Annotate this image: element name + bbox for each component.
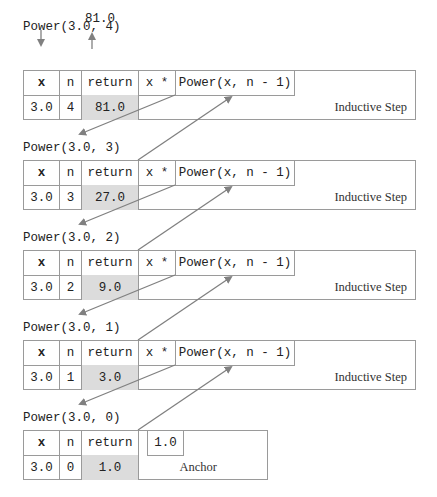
recursive-call-cell: Power(x, n - 1) <box>175 71 295 96</box>
value-x: 3.0 <box>24 455 60 480</box>
step-label: Inductive Step <box>334 275 407 300</box>
header-n: n <box>60 161 82 186</box>
frame-title: Power(3.0, 2) <box>23 230 121 246</box>
header-return: return <box>82 251 139 276</box>
frame-title: Power(3.0, 0) <box>23 410 121 426</box>
frame-title: Power(3.0, 1) <box>23 320 121 336</box>
stack-frame-2: x n return x * Power(x, n - 1) 3.0 3 27.… <box>23 160 416 210</box>
header-mult: x * <box>139 341 176 366</box>
value-x: 3.0 <box>24 95 60 120</box>
stack-frame-1: x n return x * Power(x, n - 1) 3.0 4 81.… <box>23 70 416 120</box>
header-return: return <box>82 431 139 456</box>
header-mult: x * <box>139 251 176 276</box>
step-label: Inductive Step <box>334 95 407 120</box>
stack-frame-3: x n return x * Power(x, n - 1) 3.0 2 9.0… <box>23 250 416 300</box>
recursive-call-cell: Power(x, n - 1) <box>175 251 295 276</box>
stack-frame-anchor: x n return 1.0 3.0 0 1.0 Anchor <box>23 430 268 480</box>
header-n: n <box>60 251 82 276</box>
header-x: x <box>24 431 60 456</box>
value-return: 3.0 <box>82 365 139 390</box>
header-x: x <box>24 71 60 96</box>
value-return: 1.0 <box>82 455 139 480</box>
frame-title: Power(3.0, 4) <box>23 19 121 35</box>
header-return: return <box>82 341 139 366</box>
anchor-value-cell: 1.0 <box>147 431 184 456</box>
header-x: x <box>24 341 60 366</box>
stack-frame-4: x n return x * Power(x, n - 1) 3.0 1 3.0… <box>23 340 416 390</box>
header-x: x <box>24 251 60 276</box>
recursive-call-cell: Power(x, n - 1) <box>175 161 295 186</box>
step-label: Inductive Step <box>334 185 407 210</box>
header-return: return <box>82 161 139 186</box>
value-x: 3.0 <box>24 365 60 390</box>
header-n: n <box>60 71 82 96</box>
frame-title: Power(3.0, 3) <box>23 140 121 156</box>
value-return: 9.0 <box>82 275 139 300</box>
step-label: Anchor <box>180 455 218 480</box>
value-n: 0 <box>60 455 82 480</box>
value-n: 4 <box>60 95 82 120</box>
header-mult: x * <box>139 71 176 96</box>
value-return: 81.0 <box>82 95 139 120</box>
recursive-call-cell: Power(x, n - 1) <box>175 341 295 366</box>
value-n: 2 <box>60 275 82 300</box>
header-n: n <box>60 431 82 456</box>
header-x: x <box>24 161 60 186</box>
value-n: 3 <box>60 185 82 210</box>
header-n: n <box>60 341 82 366</box>
value-x: 3.0 <box>24 275 60 300</box>
value-x: 3.0 <box>24 185 60 210</box>
value-n: 1 <box>60 365 82 390</box>
step-label: Inductive Step <box>334 365 407 390</box>
header-return: return <box>82 71 139 96</box>
header-mult: x * <box>139 161 176 186</box>
value-return: 27.0 <box>82 185 139 210</box>
